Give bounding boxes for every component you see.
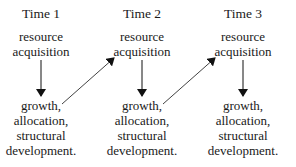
text-line: structural [92,128,192,143]
text-line: development. [193,143,293,158]
time-label: Time 1 [0,6,91,22]
text-line: structural [0,128,91,143]
text-line: allocation, [193,113,293,128]
resource-acquisition-label: resource acquisition [92,29,192,59]
growth-allocation-label: growth, allocation, structural developme… [193,98,293,158]
growth-allocation-label: growth, allocation, structural developme… [92,98,192,158]
resource-acquisition-label: resource acquisition [0,29,91,59]
text-line: development. [0,143,91,158]
text-line: structural [193,128,293,143]
text-line: growth, [0,98,91,113]
text-line: development. [92,143,192,158]
text-line: allocation, [92,113,192,128]
time-label: Time 3 [193,6,293,22]
text-line: growth, [92,98,192,113]
text-line: resource [92,29,192,44]
text-line: growth, [193,98,293,113]
resource-acquisition-label: resource acquisition [193,29,293,59]
text-line: allocation, [0,113,91,128]
text-line: resource [0,29,91,44]
text-line: acquisition [0,44,91,59]
text-line: acquisition [193,44,293,59]
text-line: resource [193,29,293,44]
time-label: Time 2 [92,6,192,22]
text-line: acquisition [92,44,192,59]
growth-allocation-label: growth, allocation, structural developme… [0,98,91,158]
